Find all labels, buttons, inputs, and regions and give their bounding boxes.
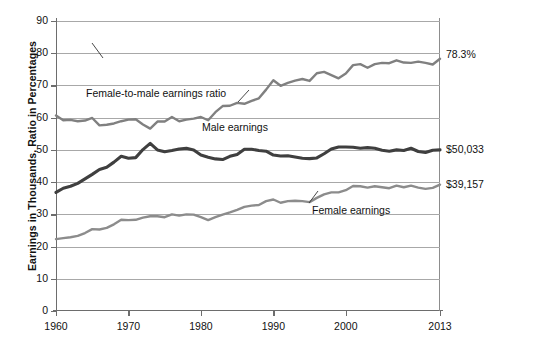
x-tick-label: 1960 — [31, 320, 81, 332]
plot-area: 0102030405060708090 19601970198019902000… — [56, 21, 440, 311]
x-tick-label: 2013 — [415, 320, 465, 332]
leader-ratio — [92, 43, 103, 58]
end-label-male-earnings: $50,033 — [446, 143, 484, 155]
x-tick-mark — [273, 311, 274, 316]
y-tick-label: 40 — [22, 175, 48, 187]
annotation-female-earnings: Female earnings — [312, 204, 390, 216]
x-tick-label: 2000 — [321, 320, 371, 332]
end-label-female-earnings: $39,157 — [446, 178, 484, 190]
x-tick-mark — [440, 311, 441, 316]
y-tick-label: 10 — [22, 272, 48, 284]
chart-container: Earnings in Thousands, Ratio in Percenta… — [0, 0, 537, 350]
y-tick-label: 80 — [22, 46, 48, 58]
leader-female — [309, 191, 318, 203]
y-tick-label: 30 — [22, 207, 48, 219]
y-tick-label: 20 — [22, 240, 48, 252]
annotation-leader-lines — [56, 21, 440, 311]
leader-male — [238, 90, 249, 102]
x-tick-label: 1980 — [176, 320, 226, 332]
end-label-ratio: 78.3% — [446, 48, 476, 60]
y-tick-label: 90 — [22, 14, 48, 26]
x-tick-mark — [201, 311, 202, 316]
y-tick-label: 60 — [22, 111, 48, 123]
x-tick-label: 1990 — [248, 320, 298, 332]
x-tick-mark — [56, 311, 57, 316]
y-tick-label: 0 — [22, 304, 48, 316]
y-tick-label: 70 — [22, 78, 48, 90]
x-tick-mark — [346, 311, 347, 316]
annotation-male-earnings: Male earnings — [202, 121, 268, 133]
annotation-female-to-male-earnings-ratio: Female-to-male earnings ratio — [86, 87, 226, 99]
x-tick-mark — [128, 311, 129, 316]
y-tick-label: 50 — [22, 143, 48, 155]
x-tick-label: 1970 — [103, 320, 153, 332]
